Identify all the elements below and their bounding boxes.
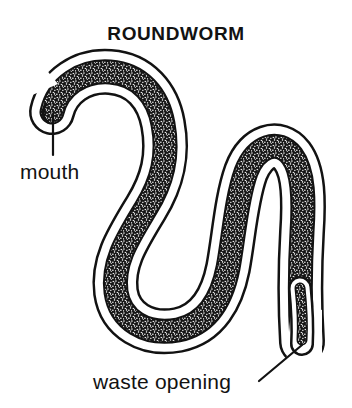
mouth-label-text: mouth <box>20 160 79 183</box>
worm-body <box>14 62 322 408</box>
worm-cuticle-layer <box>52 72 303 342</box>
waste-opening-label-text: waste opening <box>92 370 231 393</box>
label-waste-opening: waste opening <box>92 345 302 393</box>
roundworm-figure-page: ROUNDWORM mouth <box>0 0 352 408</box>
figure-title: ROUNDWORM <box>107 23 244 44</box>
roundworm-illustration: ROUNDWORM mouth <box>0 0 352 408</box>
worm-tail-gut-stipple <box>300 288 302 340</box>
